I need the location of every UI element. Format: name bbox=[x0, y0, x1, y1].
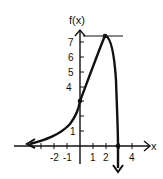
y-tick-label-1: 1 bbox=[70, 126, 76, 137]
y-tick-label-5: 5 bbox=[68, 67, 74, 78]
y-axis-label: f(x) bbox=[69, 14, 85, 26]
x-axis-label: x bbox=[151, 140, 157, 152]
x-tick-label-m2: -2 bbox=[50, 152, 59, 163]
x-tick-label-4: 4 bbox=[129, 152, 135, 163]
x-tick-label-2: 2 bbox=[103, 152, 109, 163]
function-curve bbox=[30, 36, 118, 168]
y-tick-label-7: 7 bbox=[68, 37, 74, 48]
x-intercept-point bbox=[116, 144, 121, 149]
x-tick-label-1: 1 bbox=[90, 152, 96, 163]
function-graph: f(x) x 7 6 5 4 1 -2 -1 1 2 4 bbox=[0, 0, 163, 179]
y-intercept-point bbox=[78, 99, 83, 104]
x-tick-label-m1: -1 bbox=[63, 152, 72, 163]
y-tick-label-4: 4 bbox=[66, 82, 72, 93]
maximum-point bbox=[103, 34, 108, 39]
y-tick-label-6: 6 bbox=[68, 52, 74, 63]
